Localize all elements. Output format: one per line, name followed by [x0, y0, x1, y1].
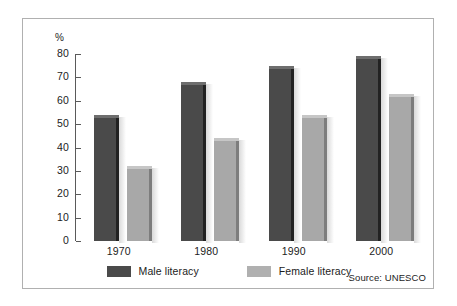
- y-axis-tick: 10: [23, 218, 83, 219]
- bars-layer: [75, 54, 425, 241]
- bar-top-cap: [356, 56, 381, 59]
- bar-female-1990: [302, 115, 327, 241]
- y-axis-tick: 60: [23, 101, 83, 102]
- bar-group: [94, 54, 152, 241]
- bar-shadow: [381, 58, 388, 243]
- bar-group: [356, 54, 414, 241]
- x-axis-labels: 1970198019902000: [75, 245, 425, 261]
- y-axis-tick-label: 0: [47, 234, 69, 246]
- y-axis-tick: 40: [23, 148, 83, 149]
- bar-shadow: [414, 96, 421, 243]
- x-axis-label-1970: 1970: [75, 245, 163, 257]
- bar-male-1990: [269, 66, 294, 241]
- bar-top-cap: [214, 138, 239, 141]
- bar-shadow: [327, 117, 334, 243]
- bar-male-1980: [181, 82, 206, 241]
- y-axis-tick-label: 80: [47, 47, 69, 59]
- bar-group: [269, 54, 327, 241]
- bar-top-cap: [127, 166, 152, 169]
- y-axis-tick: 30: [23, 171, 83, 172]
- y-axis-tick-label: 70: [47, 70, 69, 82]
- bar-shadow: [119, 117, 126, 243]
- y-axis-tick-label: 30: [47, 164, 69, 176]
- legend-swatch-female: [247, 266, 271, 277]
- y-axis-unit-label: %: [55, 32, 64, 43]
- chart-frame: % 01020304050607080 1970198019902000 Mal…: [22, 18, 434, 289]
- bar-top-cap: [269, 66, 294, 69]
- bar-face: [181, 82, 203, 241]
- bar-face: [356, 56, 378, 241]
- bar-female-2000: [389, 94, 414, 241]
- y-axis-tick-label: 40: [47, 141, 69, 153]
- legend-item-female[interactable]: Female literacy: [247, 265, 352, 277]
- bar-male-2000: [356, 56, 381, 241]
- bar-side-face: [236, 138, 239, 241]
- y-axis-tick: 0: [23, 241, 83, 242]
- y-axis-tick: 80: [23, 54, 83, 55]
- x-axis-label-1990: 1990: [250, 245, 338, 257]
- bar-shadow: [152, 168, 159, 243]
- bar-face: [302, 115, 324, 241]
- bar-shadow: [239, 140, 246, 243]
- y-axis-tick: 20: [23, 194, 83, 195]
- bar-top-cap: [181, 82, 206, 85]
- y-axis-tick-label: 50: [47, 117, 69, 129]
- bar-top-cap: [389, 94, 414, 97]
- bar-female-1970: [127, 166, 152, 241]
- bar-face: [389, 94, 411, 241]
- y-axis-tick-label: 60: [47, 94, 69, 106]
- bar-side-face: [324, 115, 327, 241]
- bar-side-face: [203, 82, 206, 241]
- bar-face: [214, 138, 236, 241]
- bar-group: [181, 54, 239, 241]
- y-axis-tick: 50: [23, 124, 83, 125]
- y-axis-tick-label: 20: [47, 187, 69, 199]
- legend-item-male[interactable]: Male literacy: [107, 265, 199, 277]
- bar-face: [269, 66, 291, 241]
- bar-face: [94, 115, 116, 241]
- legend-label: Female literacy: [279, 265, 352, 277]
- bar-side-face: [291, 66, 294, 241]
- x-axis-label-2000: 2000: [338, 245, 426, 257]
- y-axis-tick-mark: [76, 241, 81, 242]
- bar-top-cap: [94, 115, 119, 118]
- bar-female-1980: [214, 138, 239, 241]
- y-axis-tick-label: 10: [47, 211, 69, 223]
- source-note: Source: UNESCO: [349, 272, 426, 283]
- bar-shadow: [294, 68, 301, 243]
- bar-top-cap: [302, 115, 327, 118]
- legend-label: Male literacy: [139, 265, 199, 277]
- legend-swatch-male: [107, 266, 131, 277]
- bar-side-face: [411, 94, 414, 241]
- y-axis-tick: 70: [23, 77, 83, 78]
- x-axis-label-1980: 1980: [163, 245, 251, 257]
- bar-male-1970: [94, 115, 119, 241]
- bar-side-face: [378, 56, 381, 241]
- bar-face: [127, 166, 149, 241]
- bar-side-face: [116, 115, 119, 241]
- bar-side-face: [149, 166, 152, 241]
- plot-area: % 01020304050607080 1970198019902000: [23, 19, 435, 290]
- bar-shadow: [206, 84, 213, 243]
